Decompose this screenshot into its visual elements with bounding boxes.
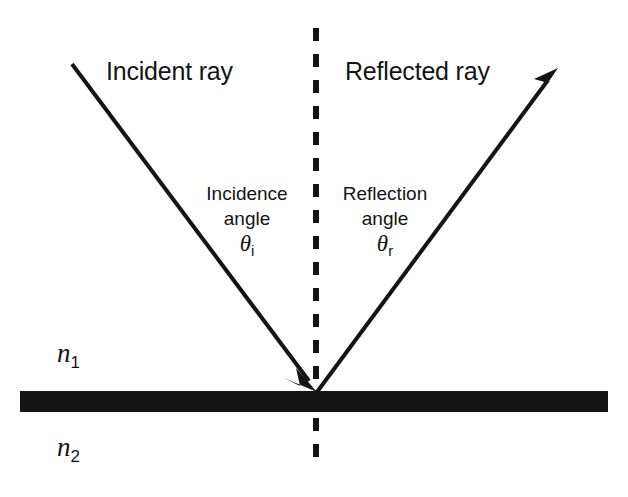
refractive-index-n2-label: n2 [57,432,80,467]
n1-subscript: 1 [71,353,80,372]
n1-symbol: n [57,338,71,368]
incidence-angle-line2: angle [186,206,308,231]
incidence-angle-label: Incidence angle θi [186,181,308,263]
theta-r-symbol: θ [377,231,388,256]
theta-i-subscript: i [251,242,254,259]
n2-subscript: 2 [71,447,80,466]
reflection-angle-symbol-row: θr [324,231,446,263]
diagram-canvas [0,0,628,497]
theta-r-subscript: r [388,242,393,259]
reflection-angle-label: Reflection angle θr [324,181,446,263]
reflection-angle-line1: Reflection [324,181,446,206]
incident-ray-label: Incident ray [106,57,233,86]
incidence-angle-line1: Incidence [186,181,308,206]
reflection-diagram: Incident ray Reflected ray Incidence ang… [0,0,628,497]
refractive-index-n1-label: n1 [57,338,80,373]
reflection-angle-line2: angle [324,206,446,231]
incidence-angle-symbol-row: θi [186,231,308,263]
n2-symbol: n [57,432,71,462]
reflected-ray-label: Reflected ray [345,57,490,86]
theta-i-symbol: θ [240,231,251,256]
